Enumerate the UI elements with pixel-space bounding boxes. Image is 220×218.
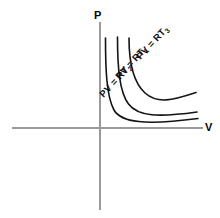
y-axis-label: P xyxy=(94,10,101,21)
plot-canvas xyxy=(0,0,220,218)
x-axis-label: V xyxy=(205,122,212,133)
pv-isotherm-diagram: P V PV = RT2 PV = RT1 PV = RT3 xyxy=(0,0,220,218)
